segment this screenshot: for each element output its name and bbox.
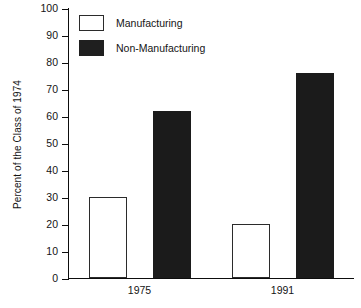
y-tick-label: 90 (46, 29, 58, 42)
legend-item-non-manufacturing: Non-Manufacturing (79, 39, 279, 56)
legend-swatch-open-icon (79, 15, 104, 31)
y-tick-label: 40 (46, 164, 58, 177)
y-tick-mark (62, 63, 69, 64)
y-tick-label: 50 (46, 137, 58, 150)
x-axis-line (68, 278, 354, 279)
y-tick-label: 80 (46, 56, 58, 69)
x-category-label-1991: 1991 (243, 284, 323, 296)
y-tick-label: 60 (46, 110, 58, 123)
bar-chart: Percent of the Class of 1974 01020304050… (0, 0, 361, 308)
bar-manufacturing-1975 (89, 197, 127, 278)
y-tick-mark (62, 252, 69, 253)
legend-item-manufacturing: Manufacturing (79, 14, 279, 31)
x-category-label-1975: 1975 (100, 284, 180, 296)
y-tick-mark (62, 198, 69, 199)
y-tick-label: 100 (40, 2, 58, 15)
y-tick-label: 0 (52, 272, 58, 285)
bar-non-manufacturing-1991 (296, 73, 334, 278)
bar-non-manufacturing-1975 (153, 111, 191, 278)
y-tick-mark (62, 36, 69, 37)
legend-swatch-filled-icon (79, 40, 104, 56)
y-tick-mark (62, 225, 69, 226)
y-tick-label: 10 (46, 245, 58, 258)
y-tick-label: 20 (46, 218, 58, 231)
y-tick-label: 70 (46, 83, 58, 96)
y-tick-mark (62, 279, 69, 280)
legend-label-manufacturing: Manufacturing (116, 17, 183, 29)
bar-manufacturing-1991 (232, 224, 270, 278)
legend-label-non-manufacturing: Non-Manufacturing (116, 42, 205, 54)
y-tick-mark (62, 171, 69, 172)
y-tick-mark (62, 90, 69, 91)
y-axis-title: Percent of the Class of 1974 (12, 50, 23, 240)
y-tick-label: 30 (46, 191, 58, 204)
legend: Manufacturing Non-Manufacturing (79, 14, 279, 64)
y-tick-mark (62, 9, 69, 10)
y-tick-mark (62, 117, 69, 118)
y-tick-mark (62, 144, 69, 145)
